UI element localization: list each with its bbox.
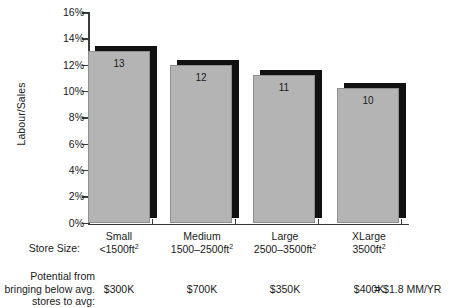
y-axis-tick-label: 6% <box>69 138 84 150</box>
bar-xlarge[interactable]: 10 <box>337 88 399 222</box>
x-axis-line <box>88 224 409 226</box>
bar-face <box>253 75 315 222</box>
y-axis-tick-label: 12% <box>63 59 84 71</box>
superscript-two: 2 <box>312 242 316 249</box>
summary-table: Store Size: Potential from bringing belo… <box>0 228 452 300</box>
store-size-cell-xlarge: XLarge3500ft2 <box>319 230 419 255</box>
bar-face <box>337 88 399 222</box>
superscript-two: 2 <box>229 242 233 249</box>
bar-value-label: 13 <box>88 58 150 69</box>
y-axis-tick-label: 0% <box>69 217 84 229</box>
x-axis-tick-mark <box>318 219 320 224</box>
plot-area: 16%14%12%10%8%6%4%2%0% 13121110 <box>88 12 408 224</box>
y-axis-tick-label: 10% <box>63 85 84 97</box>
bar-large[interactable]: 11 <box>253 75 315 222</box>
potential-row-label-line1: Potential from <box>30 270 95 282</box>
x-axis-tick-mark <box>401 219 403 224</box>
bar-medium[interactable]: 12 <box>170 65 232 223</box>
y-axis-title: Labour/Sales <box>15 69 27 159</box>
bar-face <box>170 65 232 223</box>
bar-face <box>88 51 150 222</box>
y-axis-tick-label: 16% <box>63 6 84 18</box>
x-axis-tick-mark <box>152 219 154 224</box>
superscript-two: 2 <box>382 242 386 249</box>
store-size-row-label: Store Size: <box>0 242 80 255</box>
y-axis-tick-label: 8% <box>69 111 84 123</box>
y-axis-tick-label: 2% <box>69 190 84 202</box>
bar-value-label: 10 <box>337 95 399 106</box>
potential-row-label-line2: bringing below <box>5 283 73 295</box>
y-axis-tick-label: 14% <box>63 32 84 44</box>
bar-small[interactable]: 13 <box>88 51 150 222</box>
bar-value-label: 11 <box>253 82 315 93</box>
total-annotation: = $1.8 MM/YR <box>374 283 441 295</box>
superscript-two: 2 <box>135 242 139 249</box>
store-size-range: 3500ft2 <box>319 243 419 256</box>
y-axis-tick-label: 4% <box>69 164 84 176</box>
store-size-name: XLarge <box>319 230 419 243</box>
x-axis-tick-mark <box>235 219 237 224</box>
bar-value-label: 12 <box>170 72 232 83</box>
